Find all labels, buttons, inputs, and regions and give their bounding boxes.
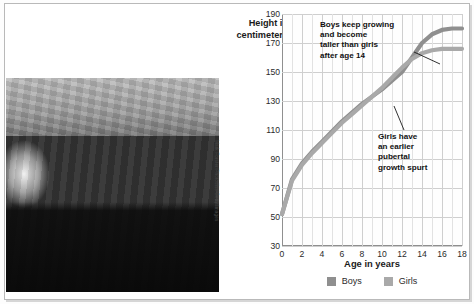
annotation-leader-line-2: [394, 106, 404, 130]
growth-chart: Height in centimeters 190170150130110907…: [244, 6, 470, 298]
legend-label-boys: Boys: [342, 276, 362, 286]
legend-swatch-boys: [327, 277, 336, 286]
legend-item-boys[interactable]: Boys: [327, 276, 362, 286]
photo-credit: Mark Forster/Photodisc/Getty Images: [214, 140, 219, 221]
chart-legend: BoysGirls: [282, 276, 462, 286]
legend-swatch-girls: [384, 277, 393, 286]
legend-item-girls[interactable]: Girls: [384, 276, 418, 286]
girls-annotation: Girls have an earlier pubertal growth sp…: [378, 132, 450, 173]
teenagers-photo: [6, 78, 219, 292]
boys-annotation: Boys keep growing and become taller than…: [320, 20, 416, 61]
figure-page: Mark Forster/Photodisc/Getty Images Heig…: [0, 0, 474, 304]
x-axis-label: Age in years: [282, 258, 462, 269]
legend-label-girls: Girls: [399, 276, 418, 286]
photo-people-layer: [6, 78, 219, 292]
